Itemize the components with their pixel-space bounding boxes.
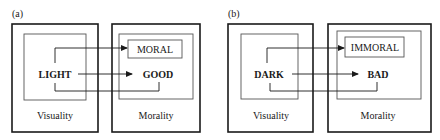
- node-immoral: IMMORAL: [351, 42, 399, 53]
- link-light-good-bottom: [55, 82, 159, 91]
- arrow-dark-to-immoral: [267, 48, 344, 63]
- node-bad: BAD: [367, 69, 388, 80]
- morality-box-b: IMMORAL BAD Morality: [328, 24, 431, 132]
- panel-b-label: (b): [228, 8, 240, 20]
- panel-b: (b) DARK Visuality IMMORAL BAD Morality: [228, 8, 431, 132]
- arrow-light-to-moral: [55, 48, 127, 63]
- morality-box-a: MORAL GOOD Morality: [112, 24, 200, 132]
- link-dark-bad-bottom: [270, 82, 377, 91]
- diagram-canvas: (a) LIGHT Visuality MORAL GOOD Morality …: [0, 0, 440, 140]
- node-light: LIGHT: [39, 69, 72, 80]
- node-good: GOOD: [143, 69, 174, 80]
- visuality-box-a: LIGHT Visuality: [12, 24, 98, 132]
- morality-title: Morality: [139, 110, 174, 121]
- panel-a: (a) LIGHT Visuality MORAL GOOD Morality: [12, 8, 200, 132]
- visuality-title: Visuality: [253, 110, 289, 121]
- node-dark: DARK: [254, 69, 284, 80]
- visuality-box-b: DARK Visuality: [228, 24, 313, 132]
- node-moral: MORAL: [137, 44, 173, 55]
- panel-a-label: (a): [12, 8, 23, 20]
- visuality-title: Visuality: [37, 110, 73, 121]
- morality-title: Morality: [361, 110, 396, 121]
- visuality-inner-frame: [241, 34, 298, 99]
